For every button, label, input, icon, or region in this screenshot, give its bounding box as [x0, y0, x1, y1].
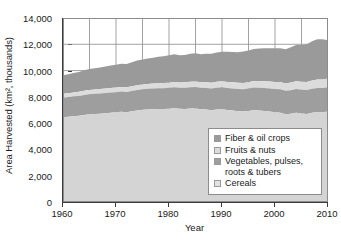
x-tick-mark [221, 203, 222, 207]
x-tick-label: 1960 [51, 208, 72, 219]
x-tick-mark [327, 203, 328, 207]
y-axis-tick-labels: 14,00012,00010,0008,0006,0004,0002,0000 [10, 18, 58, 202]
legend-item[interactable]: Fruits & nuts [214, 145, 317, 156]
chart-figure: Area Harvested (km², thousands) 14,00012… [0, 0, 341, 240]
x-axis-tick-labels: 196019701980199020002010 [62, 203, 329, 221]
y-tick-label: 8,000 [28, 91, 52, 102]
y-tick-label: 0 [47, 197, 52, 208]
x-tick-label: 2010 [316, 208, 337, 219]
legend-item[interactable]: Cereals [214, 178, 317, 189]
y-tick-label: 2,000 [28, 170, 52, 181]
x-tick-mark [115, 203, 116, 207]
y-tick-label: 10,000 [23, 65, 52, 76]
x-tick-label: 1980 [157, 208, 178, 219]
x-tick-mark [62, 203, 63, 207]
x-axis-title: Year [62, 222, 327, 233]
legend-item-label: Vegetables, pulses, roots & tubers [225, 156, 317, 177]
y-tick-label: 14,000 [23, 13, 52, 24]
x-tick-label: 1990 [210, 208, 231, 219]
x-tick-label: 2000 [263, 208, 284, 219]
x-tick-mark [274, 203, 275, 207]
legend-swatch-icon [214, 147, 221, 154]
legend-item-label: Cereals [225, 178, 256, 189]
legend-swatch-icon [214, 158, 221, 165]
legend-swatch-icon [214, 135, 221, 142]
legend-item-label: Fiber & oil crops [225, 133, 290, 144]
chart-legend: Fiber & oil cropsFruits & nutsVegetables… [208, 128, 322, 195]
y-tick-label: 4,000 [28, 144, 52, 155]
legend-swatch-icon [214, 180, 221, 187]
x-tick-label: 1970 [104, 208, 125, 219]
y-tick-label: 6,000 [28, 118, 52, 129]
legend-item[interactable]: Vegetables, pulses, roots & tubers [214, 156, 317, 177]
legend-item-label: Fruits & nuts [225, 145, 276, 156]
y-tick-label: 12,000 [23, 39, 52, 50]
legend-item[interactable]: Fiber & oil crops [214, 133, 317, 144]
x-tick-mark [168, 203, 169, 207]
